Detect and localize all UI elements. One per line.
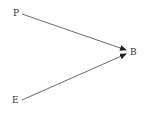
diagram-edges xyxy=(0,0,146,114)
causal-diagram: P B E xyxy=(0,0,146,114)
node-p-label: P xyxy=(13,9,19,18)
edge-p-to-b xyxy=(22,14,126,50)
node-e-label: E xyxy=(12,96,19,105)
edge-e-to-b xyxy=(22,54,126,100)
node-b-label: B xyxy=(130,48,137,57)
